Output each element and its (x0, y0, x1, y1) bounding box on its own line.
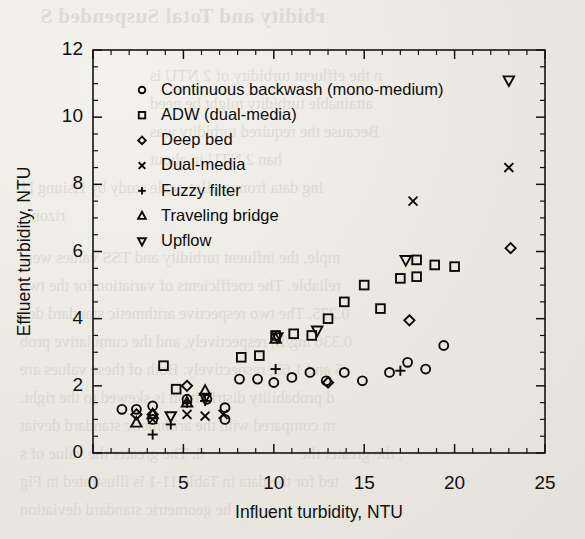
y-tick-label: 0 (72, 441, 83, 462)
data-point (201, 412, 210, 421)
data-point (253, 375, 262, 384)
marker-triangle-down (312, 327, 322, 337)
marker-square (159, 361, 168, 370)
data-point (147, 409, 157, 419)
data-point (117, 405, 126, 414)
y-tick-label: 2 (72, 374, 83, 395)
data-point (412, 256, 421, 265)
data-point (183, 410, 192, 419)
data-point (305, 368, 314, 377)
marker-diamond (182, 381, 192, 391)
marker-square (255, 351, 264, 360)
marker-square (450, 262, 459, 271)
legend-marker-diamond (138, 137, 146, 145)
marker-triangle-down (138, 238, 146, 245)
data-point (401, 256, 411, 266)
data-point (340, 298, 349, 307)
y-tick-label: 12 (62, 38, 83, 59)
data-point (323, 377, 333, 387)
data-point (237, 353, 246, 362)
marker-triangle-down (165, 412, 175, 422)
data-point (421, 365, 430, 374)
legend-label: Deep bed (161, 130, 233, 148)
legend-marker-plus (138, 187, 146, 195)
marker-square (360, 281, 369, 290)
marker-circle (403, 358, 412, 367)
x-axis-title: Influent turbidity, NTU (235, 502, 403, 522)
x-tick-label: 5 (178, 472, 189, 493)
marker-circle (421, 365, 430, 374)
data-point (165, 412, 175, 422)
data-point (312, 327, 322, 337)
y-axis-title: Effluent turbidity, NTU (14, 167, 34, 337)
data-point (131, 417, 141, 427)
marker-triangle-down (401, 256, 411, 266)
marker-square (172, 385, 181, 394)
marker-diamond (506, 243, 516, 253)
marker-circle (117, 405, 126, 414)
marker-square (139, 112, 145, 118)
data-point (412, 272, 421, 281)
legend-label: Traveling bridge (161, 206, 279, 224)
data-point (385, 368, 394, 377)
data-point (439, 341, 448, 350)
x-tick-label: 25 (534, 472, 555, 493)
chart-legend: Continuous backwash (mono-medium)ADW (du… (138, 80, 443, 249)
marker-square (324, 314, 333, 323)
marker-triangle-up (131, 417, 141, 427)
marker-circle (253, 375, 262, 384)
data-point (340, 368, 349, 377)
y-tick-label: 4 (72, 307, 83, 328)
x-tick-label: 20 (444, 472, 465, 493)
marker-circle (139, 87, 146, 94)
data-point (395, 366, 405, 376)
marker-circle (269, 378, 278, 387)
y-tick-label: 10 (62, 105, 83, 126)
data-point (396, 274, 405, 283)
marker-circle (385, 368, 394, 377)
marker-square (412, 256, 421, 265)
data-point (506, 243, 516, 253)
marker-triangle-down (504, 76, 514, 86)
data-point (269, 378, 278, 387)
y-tick-label: 8 (72, 172, 83, 193)
data-point (358, 376, 367, 385)
marker-circle (305, 368, 314, 377)
marker-diamond (138, 137, 146, 145)
legend-marker-cross (139, 162, 146, 169)
x-tick-label: 15 (354, 472, 375, 493)
data-point (504, 76, 514, 86)
data-point (403, 358, 412, 367)
legend-marker-circle (139, 87, 146, 94)
data-point (404, 315, 414, 325)
marker-square (396, 274, 405, 283)
marker-triangle-up (147, 409, 157, 419)
data-point (289, 329, 298, 338)
data-point (504, 163, 513, 172)
data-point (450, 262, 459, 271)
data-point (271, 364, 281, 374)
data-point (182, 381, 192, 391)
marker-triangle-up (138, 212, 146, 219)
x-tick-label: 0 (88, 472, 99, 493)
y-tick-label: 6 (72, 240, 83, 261)
series-triangle-up (131, 333, 281, 427)
x-tick-label: 10 (263, 472, 284, 493)
data-point (159, 361, 168, 370)
marker-square (289, 329, 298, 338)
data-point (172, 385, 181, 394)
legend-label: Continuous backwash (mono-medium) (161, 80, 443, 98)
data-point (148, 429, 158, 439)
legend-marker-triangle-up (138, 212, 146, 219)
marker-circle (235, 375, 244, 384)
data-point (255, 351, 264, 360)
scatter-plot: 0510152025024681012Influent turbidity, N… (0, 0, 585, 539)
marker-circle (340, 368, 349, 377)
marker-square (340, 298, 349, 307)
marker-square (376, 304, 385, 313)
marker-square (237, 353, 246, 362)
marker-diamond (404, 315, 414, 325)
data-point (235, 375, 244, 384)
legend-marker-square (139, 112, 145, 118)
data-point (360, 281, 369, 290)
